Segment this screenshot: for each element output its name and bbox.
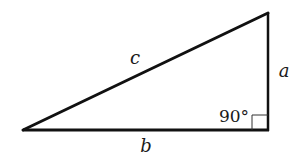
right-angle-marker [252,115,268,130]
base-label: b [140,135,152,156]
right-angle-label: 90° [219,106,249,126]
right-triangle-diagram: c a b 90° [0,0,303,160]
vertical-side-label: a [279,60,290,81]
hypotenuse-label: c [130,47,140,68]
